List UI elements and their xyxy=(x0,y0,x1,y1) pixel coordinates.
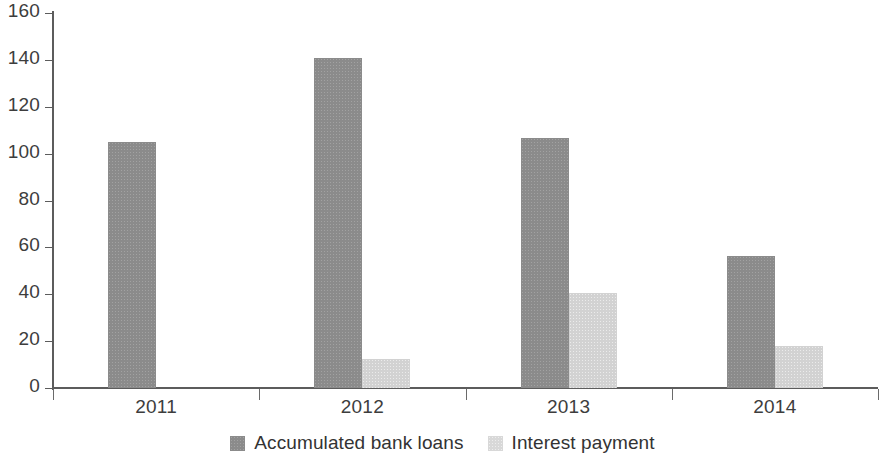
legend-item-accumulated-bank-loans[interactable]: Accumulated bank loans xyxy=(230,432,463,454)
chart-legend: Accumulated bank loansInterest payment xyxy=(0,432,885,454)
y-axis-tick xyxy=(45,294,53,295)
y-axis-tick-label: 120 xyxy=(0,94,40,116)
bar-2014-interest-payment xyxy=(775,346,823,388)
bar-chart: 020406080100120140160 2011201220132014 A… xyxy=(0,0,885,462)
bar-2012-interest-payment xyxy=(362,359,410,388)
x-axis-label-2013: 2013 xyxy=(509,396,629,418)
bar-2011-accumulated-bank-loans xyxy=(108,142,156,388)
x-axis-label-2011: 2011 xyxy=(96,396,216,418)
bar-2013-accumulated-bank-loans xyxy=(521,138,569,388)
bar-2012-accumulated-bank-loans xyxy=(314,58,362,388)
y-axis-tick xyxy=(45,247,53,248)
plot-area xyxy=(53,13,878,388)
bar-2013-interest-payment xyxy=(569,293,617,388)
bar-2014-accumulated-bank-loans xyxy=(727,256,775,388)
y-axis-tick-label: 0 xyxy=(0,375,40,397)
y-axis-tick-label: 60 xyxy=(0,234,40,256)
y-axis-tick-label: 80 xyxy=(0,188,40,210)
y-axis-tick-label: 160 xyxy=(0,0,40,22)
y-axis-tick-label: 20 xyxy=(0,328,40,350)
x-axis-label-2014: 2014 xyxy=(715,396,835,418)
legend-swatch-icon xyxy=(488,436,503,451)
y-axis-tick xyxy=(45,60,53,61)
y-axis-tick-label: 140 xyxy=(0,47,40,69)
y-axis-tick xyxy=(45,107,53,108)
x-axis-category-tick xyxy=(672,389,673,400)
legend-swatch-icon xyxy=(230,436,245,451)
y-axis-tick-label: 40 xyxy=(0,281,40,303)
y-axis-tick xyxy=(45,388,53,389)
legend-label: Accumulated bank loans xyxy=(254,432,463,454)
x-axis-label-2012: 2012 xyxy=(302,396,422,418)
legend-label: Interest payment xyxy=(512,432,655,454)
x-axis-category-tick xyxy=(259,389,260,400)
y-axis-tick xyxy=(45,13,53,14)
y-axis-tick xyxy=(45,154,53,155)
y-axis-tick xyxy=(45,201,53,202)
x-axis-category-tick xyxy=(53,389,54,400)
y-axis-tick-label: 100 xyxy=(0,141,40,163)
x-axis-category-tick xyxy=(466,389,467,400)
legend-item-interest-payment[interactable]: Interest payment xyxy=(488,432,655,454)
x-axis-category-tick xyxy=(878,389,879,400)
y-axis-tick xyxy=(45,341,53,342)
